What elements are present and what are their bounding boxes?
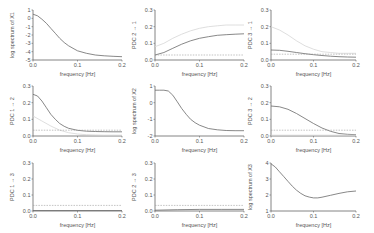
x-tick-label: 0.1 xyxy=(74,138,82,144)
axes-frame xyxy=(33,163,122,211)
x-tick-label: 0.0 xyxy=(267,213,275,219)
x-tick-label: 0.2 xyxy=(352,62,360,68)
y-tick-label: -3 xyxy=(26,40,31,46)
y-tick-label: 0.2 xyxy=(145,176,153,182)
subplot-r1-c2: 0.30.20.10.00.00.10.2frequency [Hz]PDC 3… xyxy=(247,83,360,153)
x-axis-label: frequency [Hz] xyxy=(182,147,218,153)
x-tick-label: 0.2 xyxy=(352,138,360,144)
y-tick-label: -2 xyxy=(26,32,31,38)
axes-frame xyxy=(271,10,356,60)
y-tick-label: 0.3 xyxy=(261,83,269,89)
axes-frame xyxy=(33,10,122,60)
y-tick-label: -4 xyxy=(26,49,31,55)
y-tick-label: 0.3 xyxy=(145,160,153,166)
axes-frame xyxy=(155,86,244,136)
y-axis-label: PDC 2 → 1 xyxy=(131,21,137,49)
subplot-r1-c0: 0.30.20.10.00.00.10.2frequency [Hz]PDC 1… xyxy=(9,83,126,153)
x-tick-label: 0.1 xyxy=(310,62,318,68)
subplot-r0-c2: 0.30.20.10.00.00.10.2frequency [Hz]PDC 3… xyxy=(247,7,360,77)
y-tick-label: 0.3 xyxy=(261,7,269,13)
y-tick-label: 0.1 xyxy=(145,40,153,46)
pdc-figure-grid: 10-1-2-3-4-50.00.10.2frequency [Hz]log s… xyxy=(0,0,374,233)
y-tick-label: 0 xyxy=(149,100,152,106)
series-upper-bound xyxy=(271,27,356,54)
x-tick-label: 0.2 xyxy=(118,62,126,68)
x-tick-label: 0.2 xyxy=(240,213,248,219)
y-axis-label: log spectrum of X2 xyxy=(131,88,137,134)
x-tick-label: 0.2 xyxy=(118,213,126,219)
y-tick-label: 4 xyxy=(265,160,268,166)
y-tick-label: 0.1 xyxy=(145,192,153,198)
y-tick-label: 0.3 xyxy=(23,83,31,89)
y-tick-label: 0.1 xyxy=(23,116,31,122)
y-tick-label: 0.3 xyxy=(145,7,153,13)
axes-frame xyxy=(33,86,122,136)
series-spectrum xyxy=(33,14,122,57)
x-tick-label: 0.1 xyxy=(310,213,318,219)
y-tick-label: 0.2 xyxy=(23,176,31,182)
x-axis-label: frequency [Hz] xyxy=(182,71,218,77)
axes-frame xyxy=(155,10,244,60)
x-tick-label: 0.0 xyxy=(151,62,159,68)
x-tick-label: 0.2 xyxy=(118,138,126,144)
axes-frame xyxy=(271,163,356,211)
subplot-r0-c0: 10-1-2-3-4-50.00.10.2frequency [Hz]log s… xyxy=(9,7,126,77)
y-tick-label: 0.1 xyxy=(261,116,269,122)
x-tick-label: 0.2 xyxy=(240,138,248,144)
x-tick-label: 0.0 xyxy=(151,138,159,144)
x-tick-label: 0.0 xyxy=(29,138,37,144)
y-tick-label: 0 xyxy=(27,15,30,21)
axes-frame xyxy=(155,163,244,211)
subplot-r2-c0: 0.30.20.10.00.00.10.2frequency [Hz]PDC 1… xyxy=(9,160,126,228)
subplot-r0-c1: 0.30.20.10.00.00.10.2frequency [Hz]PDC 2… xyxy=(131,7,248,77)
y-axis-label: PDC 1 → 3 xyxy=(9,173,15,201)
x-axis-label: frequency [Hz] xyxy=(60,71,96,77)
subplot-r2-c1: 0.30.20.10.00.00.10.2frequency [Hz]PDC 2… xyxy=(131,160,248,228)
x-tick-label: 0.1 xyxy=(74,62,82,68)
x-tick-label: 0.2 xyxy=(352,213,360,219)
y-tick-label: 0.3 xyxy=(23,160,31,166)
series-PDC xyxy=(33,94,122,132)
y-axis-label: PDC 2 → 3 xyxy=(131,173,137,201)
series-PDC xyxy=(155,209,244,210)
y-tick-label: 0.2 xyxy=(261,100,269,106)
y-tick-label: -1 xyxy=(26,24,31,30)
x-tick-label: 0.1 xyxy=(196,62,204,68)
y-tick-label: 0.1 xyxy=(261,40,269,46)
y-tick-label: 3 xyxy=(265,176,268,182)
x-axis-label: frequency [Hz] xyxy=(296,147,332,153)
x-tick-label: 0.0 xyxy=(151,213,159,219)
x-axis-label: frequency [Hz] xyxy=(182,222,218,228)
y-tick-label: 1 xyxy=(27,7,30,13)
y-axis-label: log spectrum of X3 xyxy=(247,164,253,210)
y-axis-label: PDC 1 → 2 xyxy=(9,97,15,125)
x-axis-label: frequency [Hz] xyxy=(60,147,96,153)
series-spectrum xyxy=(155,90,244,131)
x-tick-label: 0.0 xyxy=(267,138,275,144)
y-tick-label: 0.2 xyxy=(261,24,269,30)
series-PDC xyxy=(271,106,356,135)
axes-frame xyxy=(271,86,356,136)
x-tick-label: 0.1 xyxy=(196,213,204,219)
x-tick-label: 0.1 xyxy=(196,138,204,144)
series-PDC xyxy=(155,34,244,55)
y-tick-label: 0.1 xyxy=(23,192,31,198)
x-tick-label: 0.0 xyxy=(267,62,275,68)
subplot-r2-c2: 43210.00.10.2frequency [Hz]log spectrum … xyxy=(247,160,360,228)
y-tick-label: 2 xyxy=(265,192,268,198)
x-axis-label: frequency [Hz] xyxy=(60,222,96,228)
subplot-r1-c1: 10-1-20.00.10.2frequency [Hz]log spectru… xyxy=(131,83,248,153)
y-tick-label: 0.2 xyxy=(23,100,31,106)
x-tick-label: 0.1 xyxy=(310,138,318,144)
y-axis-label: log spectrum of X1 xyxy=(9,12,15,58)
y-axis-label: PDC 3 → 1 xyxy=(247,21,253,49)
x-axis-label: frequency [Hz] xyxy=(296,222,332,228)
y-tick-label: 1 xyxy=(149,83,152,89)
x-tick-label: 0.1 xyxy=(74,213,82,219)
series-lower-bound xyxy=(33,116,122,135)
y-axis-label: PDC 3 → 2 xyxy=(247,97,253,125)
x-axis-label: frequency [Hz] xyxy=(296,71,332,77)
series-spectrum xyxy=(271,164,356,198)
y-tick-label: -1 xyxy=(148,116,153,122)
x-tick-label: 0.2 xyxy=(240,62,248,68)
